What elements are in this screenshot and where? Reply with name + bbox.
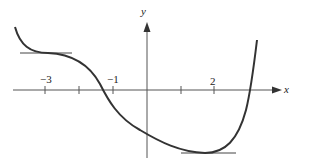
x-axis-arrow-icon [272, 87, 282, 94]
y-axis-label: y [141, 6, 146, 17]
x-axis-label: x [284, 84, 289, 95]
tick-label-neg3: −3 [40, 74, 52, 85]
tick-label-neg1: −1 [107, 74, 119, 85]
tick-label-2: 2 [210, 76, 216, 87]
y-axis-arrow-icon [144, 22, 151, 32]
